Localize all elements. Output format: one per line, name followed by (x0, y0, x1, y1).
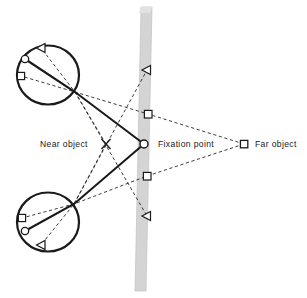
far-object-label: Far object (255, 139, 297, 149)
square-icon (18, 214, 25, 221)
far-object-ray-lower (22, 144, 244, 218)
far-object-ray-upper (21, 76, 244, 144)
x-cross-icon (102, 139, 111, 149)
circle-icon (21, 227, 28, 234)
triangle-left-icon (37, 44, 46, 53)
square-icon (17, 72, 24, 79)
square-icon (144, 110, 152, 118)
triangle-left-icon (37, 241, 46, 250)
lower-eye-globe (17, 193, 79, 252)
ray-diagram-svg (0, 0, 307, 298)
screen-top-bevel (139, 7, 152, 13)
near-object-label: Near object (40, 139, 88, 149)
fixation-point-label: Fixation point (158, 139, 214, 149)
near-object-ray-upper (41, 48, 106, 144)
near-object-ray-lower (41, 144, 106, 245)
square-icon (240, 140, 247, 147)
diagram-canvas: Near object Fixation point Far object (0, 0, 307, 298)
fixation-ray-upper (25, 59, 144, 144)
circle-icon (21, 55, 28, 62)
circle-icon (140, 140, 148, 148)
fixation-ray-lower (25, 144, 144, 231)
lower-eye-retinal-markers (18, 214, 45, 249)
square-icon (143, 172, 151, 180)
